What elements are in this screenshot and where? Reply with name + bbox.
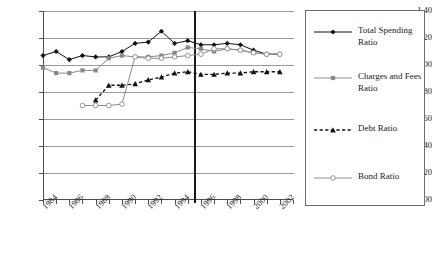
y-tick-mark <box>39 11 43 12</box>
data-point-diamond <box>330 29 335 34</box>
gridline <box>44 65 294 66</box>
legend-marker-diamond-icon <box>312 25 354 39</box>
legend-marker-open-circle-icon <box>312 171 354 185</box>
gridline <box>44 146 294 147</box>
data-point-square <box>331 76 335 80</box>
y-tick-mark <box>39 65 43 66</box>
chart-legend: Total Spending RatioCharges and Fees Rat… <box>305 10 425 206</box>
gridline <box>44 11 294 12</box>
gridline <box>44 92 294 93</box>
data-point-open-circle <box>331 176 336 181</box>
gridline <box>44 119 294 120</box>
legend-label: Debt Ratio <box>354 123 430 135</box>
gridline <box>44 38 294 39</box>
vertical-reference-line <box>194 11 196 203</box>
y-tick-mark <box>39 173 43 174</box>
legend-item-bond-ratio[interactable]: Bond Ratio <box>312 171 430 185</box>
legend-marker-square-icon <box>312 71 354 85</box>
y-tick-mark <box>39 38 43 39</box>
chart-figure: 0.000.200.400.600.801.001.201.40 1984198… <box>0 0 432 256</box>
gridline <box>44 173 294 174</box>
y-tick-mark <box>39 92 43 93</box>
plot-area <box>43 11 293 200</box>
legend-marker-triangle-icon <box>312 123 354 137</box>
legend-label: Bond Ratio <box>354 171 430 183</box>
legend-label: Charges and Fees Ratio <box>354 71 430 94</box>
legend-item-total-spending-ratio[interactable]: Total Spending Ratio <box>312 25 430 48</box>
legend-label: Total Spending Ratio <box>354 25 430 48</box>
y-tick-mark <box>39 119 43 120</box>
y-tick-mark <box>39 146 43 147</box>
legend-item-debt-ratio[interactable]: Debt Ratio <box>312 123 430 137</box>
legend-item-charges-and-fees-ratio[interactable]: Charges and Fees Ratio <box>312 71 430 94</box>
